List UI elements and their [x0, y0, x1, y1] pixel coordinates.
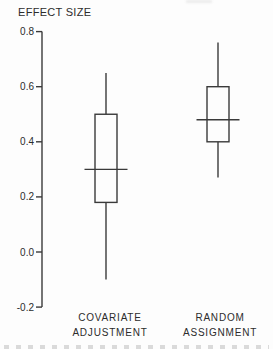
- category-label-random-line2: ASSIGNMENT: [183, 327, 257, 338]
- y-tick-label: 0.4: [20, 136, 34, 147]
- y-tick-label: -0.2: [17, 302, 35, 313]
- category-label-covariate-line1: COVARIATE: [78, 312, 142, 323]
- boxplot-covariate-adjustment-iqr-box: [95, 114, 117, 202]
- y-tick-label: 0.2: [20, 191, 34, 202]
- scan-artifact-top: [186, 0, 212, 3]
- y-tick-label: 0.0: [20, 247, 34, 258]
- y-tick-label: 0.8: [20, 26, 34, 37]
- boxplot-canvas: 0.80.60.40.20.0-0.2COVARIATEADJUSTMENTRA…: [0, 0, 273, 349]
- category-label-covariate-line2: ADJUSTMENT: [72, 327, 147, 338]
- boxplot-random-assignment-iqr-box: [207, 87, 229, 142]
- boxplot-figure: EFFECT SIZE 0.80.60.40.20.0-0.2COVARIATE…: [0, 0, 273, 349]
- category-label-random-line1: RANDOM: [195, 312, 244, 323]
- y-tick-label: 0.6: [20, 81, 34, 92]
- scan-artifact-bottom-caption-cutoff: [4, 345, 269, 349]
